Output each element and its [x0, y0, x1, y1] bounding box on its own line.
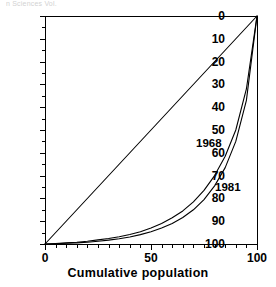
y-tick-label-90: 10 [199, 33, 225, 45]
y-tick-label-80: 20 [199, 56, 225, 68]
cropped-header-text: n Sciences Vol. [6, 0, 126, 6]
x-axis-title: Cumulative population [0, 266, 276, 280]
plot-area [45, 16, 258, 245]
x-tick-minor-70 [193, 245, 194, 248]
x-tick-minor-60 [172, 245, 173, 248]
x-tick-minor-90 [236, 245, 237, 248]
chart-curves [45, 16, 258, 245]
x-tick-label-0: 0 [25, 252, 65, 264]
y-tick-label-60: 40 [199, 101, 225, 113]
x-tick-minor-55 [162, 245, 163, 248]
lorenz-curve-figure: n Sciences Vol. 1009080706050403020100 0… [0, 0, 276, 287]
x-tick-minor-25 [98, 245, 99, 248]
x-tick-minor-85 [225, 245, 226, 248]
x-tick-minor-10 [66, 245, 67, 248]
x-tick-label-100: 100 [237, 252, 276, 264]
y-tick-label-100: 0 [199, 10, 225, 22]
x-tick-minor-20 [87, 245, 88, 248]
series-label-1968: 1968 [196, 137, 222, 149]
y-tick-label-50: 50 [199, 124, 225, 136]
x-tick-minor-65 [183, 245, 184, 248]
x-tick-minor-35 [119, 245, 120, 248]
y-tick-label-20: 80 [199, 192, 225, 204]
x-tick-minor-45 [140, 245, 141, 248]
y-tick-label-10: 90 [199, 215, 225, 227]
x-tick-major-100 [257, 245, 258, 250]
y-tick-label-70: 30 [199, 78, 225, 90]
x-tick-minor-5 [56, 245, 57, 248]
x-tick-minor-15 [77, 245, 78, 248]
series-path-line-of-equality [45, 16, 257, 244]
y-tick-label-30: 70 [199, 170, 225, 182]
x-tick-minor-30 [109, 245, 110, 248]
x-tick-minor-95 [246, 245, 247, 248]
x-tick-minor-40 [130, 245, 131, 248]
y-tick-label-0: 100 [199, 238, 225, 250]
x-tick-major-50 [151, 245, 152, 250]
x-tick-major-0 [45, 245, 46, 250]
series-label-1981: 1981 [215, 181, 241, 193]
x-tick-label-50: 50 [131, 252, 171, 264]
